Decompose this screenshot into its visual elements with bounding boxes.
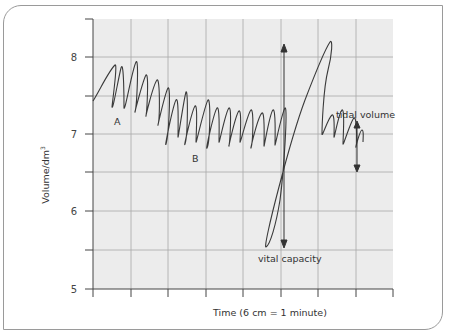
label-b: B (192, 153, 199, 164)
label-vital-capacity: vital capacity (258, 253, 322, 264)
label-a: A (114, 116, 121, 127)
y-axis-title: Volume/dm3 (39, 146, 51, 204)
spirometer-chart: 8 7 6 5 Volume/dm3 Time (6 cm = 1 minute… (0, 0, 450, 334)
y-tick-6: 6 (71, 206, 77, 217)
y-tick-5: 5 (71, 284, 77, 295)
y-tick-8: 8 (71, 52, 77, 63)
y-tick-7: 7 (71, 129, 77, 140)
x-axis-title: Time (6 cm = 1 minute) (212, 307, 327, 318)
label-tidal-volume: tidal volume (336, 109, 395, 120)
